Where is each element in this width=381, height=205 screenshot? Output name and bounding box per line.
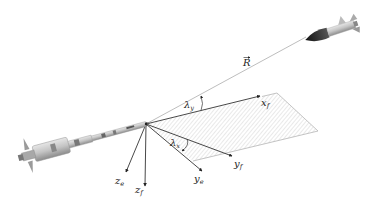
origin-point: [145, 123, 147, 125]
svg-text:ze: ze: [114, 175, 124, 188]
z-f-axis: zf: [134, 124, 146, 197]
target-missile: [302, 11, 362, 49]
svg-text:zf: zf: [134, 184, 144, 197]
svg-text:yf: yf: [233, 158, 244, 171]
svg-text:λy: λy: [183, 99, 194, 112]
interceptor-missile: [14, 106, 155, 176]
svg-text:R: R: [242, 57, 251, 68]
engagement-diagram: R xf yf ye ze zf λy λx: [0, 0, 381, 205]
range-vector-label: R: [242, 57, 251, 68]
svg-text:ye: ye: [193, 173, 204, 186]
